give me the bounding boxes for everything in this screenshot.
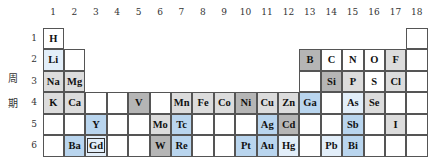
element-symbol: Cu	[261, 97, 274, 108]
element-cell-fe: Fe	[192, 92, 214, 114]
empty-element-cell	[214, 114, 236, 136]
element-symbol: S	[371, 76, 377, 87]
empty-element-cell	[192, 135, 214, 157]
element-cell-cl: Cl	[385, 71, 407, 93]
element-cell-mn: Mn	[171, 92, 193, 114]
element-cell-f: F	[385, 49, 407, 71]
element-symbol: Zn	[282, 97, 295, 108]
element-cell-li: Li	[43, 49, 65, 71]
element-symbol: Ga	[303, 97, 316, 108]
element-cell-na: Na	[43, 71, 65, 93]
element-symbol: O	[370, 54, 378, 65]
empty-element-cell	[107, 135, 129, 157]
empty-element-cell	[299, 114, 321, 136]
element-symbol: I	[394, 119, 398, 130]
element-cell-y: Y	[85, 114, 107, 136]
element-symbol: Hg	[282, 140, 295, 151]
empty-element-cell	[64, 49, 86, 71]
empty-element-cell	[321, 114, 343, 136]
empty-element-cell	[406, 92, 428, 114]
element-cell-pb: Pb	[321, 135, 343, 157]
element-cell-ni: Ni	[235, 92, 257, 114]
element-cell-ca: Ca	[64, 92, 86, 114]
element-cell-mg: Mg	[64, 71, 86, 93]
element-symbol: Se	[369, 97, 380, 108]
element-symbol: C	[328, 54, 336, 65]
empty-element-cell	[150, 92, 172, 114]
element-symbol: P	[350, 76, 356, 87]
element-symbol: Tc	[176, 119, 187, 130]
element-cell-p: P	[342, 71, 364, 93]
element-symbol: As	[347, 97, 359, 108]
period-number-label: 2	[28, 54, 40, 64]
empty-element-cell	[64, 114, 86, 136]
element-cell-tc: Tc	[171, 114, 193, 136]
element-symbol: Ni	[241, 97, 252, 108]
empty-element-cell	[406, 135, 428, 157]
period-axis-title: 周	[8, 70, 18, 85]
element-symbol: B	[307, 54, 314, 65]
group-number-label: 15	[342, 7, 363, 17]
element-cell-au: Au	[257, 135, 279, 157]
empty-element-cell	[214, 135, 236, 157]
element-symbol: Fe	[198, 97, 209, 108]
element-symbol: Y	[92, 119, 100, 130]
element-symbol: K	[49, 97, 57, 108]
element-cell-hg: Hg	[278, 135, 300, 157]
period-number-label: 3	[28, 76, 40, 86]
empty-element-cell	[43, 114, 65, 136]
element-symbol: Co	[218, 97, 231, 108]
element-symbol: V	[135, 97, 143, 108]
element-symbol: Ag	[261, 119, 274, 130]
period-number-label: 1	[28, 33, 40, 43]
element-symbol: W	[155, 140, 166, 151]
group-number-label: 17	[385, 7, 406, 17]
element-cell-zn: Zn	[278, 92, 300, 114]
group-number-label: 18	[406, 7, 427, 17]
period-number-label: 5	[28, 119, 40, 129]
element-cell-k: K	[43, 92, 65, 114]
group-number-label: 11	[257, 7, 278, 17]
element-symbol: Li	[48, 54, 58, 65]
group-number-label: 3	[85, 7, 106, 17]
period-number-label: 6	[28, 140, 40, 150]
element-symbol: N	[349, 54, 357, 65]
element-symbol: Mg	[67, 76, 82, 87]
group-number-label: 12	[278, 7, 299, 17]
group-number-label: 10	[235, 7, 256, 17]
empty-element-cell	[107, 114, 129, 136]
empty-element-cell	[321, 92, 343, 114]
element-symbol: Mn	[174, 97, 190, 108]
group-number-label: 1	[43, 7, 64, 17]
element-cell-pt: Pt	[235, 135, 257, 157]
empty-element-cell	[406, 71, 428, 93]
group-number-label: 8	[192, 7, 213, 17]
element-symbol: Mo	[153, 119, 168, 130]
element-symbol: Sb	[347, 119, 359, 130]
element-cell-si: Si	[321, 71, 343, 93]
empty-element-cell	[128, 135, 150, 157]
element-symbol: Au	[261, 140, 274, 151]
empty-element-cell	[235, 114, 257, 136]
element-symbol: Bi	[348, 140, 358, 151]
empty-element-cell	[406, 28, 428, 50]
group-number-label: 5	[128, 7, 149, 17]
element-cell-re: Re	[171, 135, 193, 157]
empty-element-cell	[107, 92, 129, 114]
element-symbol: Ba	[69, 140, 81, 151]
element-symbol: Si	[327, 76, 336, 87]
element-cell-bi: Bi	[342, 135, 364, 157]
group-number-label: 7	[171, 7, 192, 17]
element-cell-cu: Cu	[257, 92, 279, 114]
empty-element-cell	[406, 114, 428, 136]
element-cell-v: V	[128, 92, 150, 114]
empty-element-cell	[43, 135, 65, 157]
element-symbol: Cd	[282, 119, 295, 130]
element-cell-ga: Ga	[299, 92, 321, 114]
group-number-label: 6	[150, 7, 171, 17]
group-number-label: 9	[214, 7, 235, 17]
period-number-label: 4	[28, 97, 40, 107]
element-symbol: F	[392, 54, 398, 65]
group-number-label: 13	[299, 7, 320, 17]
element-cell-i: I	[385, 114, 407, 136]
